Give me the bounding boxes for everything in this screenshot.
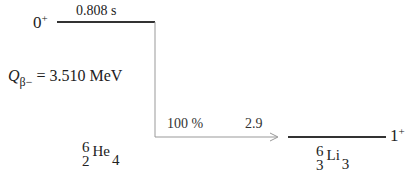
parent-nuclide-numbers: 6 2 <box>82 140 90 168</box>
parent-nuclide: 6 2 He4 <box>82 140 120 168</box>
parent-spin-parity: 0+ <box>33 12 48 33</box>
log-ft-value: 2.9 <box>245 116 263 132</box>
daughter-nuclide: 6 3 Li3 <box>316 144 349 172</box>
daughter-nuclide-numbers: 6 3 <box>316 144 324 172</box>
branching-ratio: 100 % <box>167 116 203 132</box>
daughter-spin-parity: 1+ <box>390 125 405 146</box>
parent-half-life: 0.808 s <box>76 3 116 19</box>
decay-scheme-lines <box>0 0 416 182</box>
q-value: Qβ− = 3.510 MeV <box>8 67 122 90</box>
